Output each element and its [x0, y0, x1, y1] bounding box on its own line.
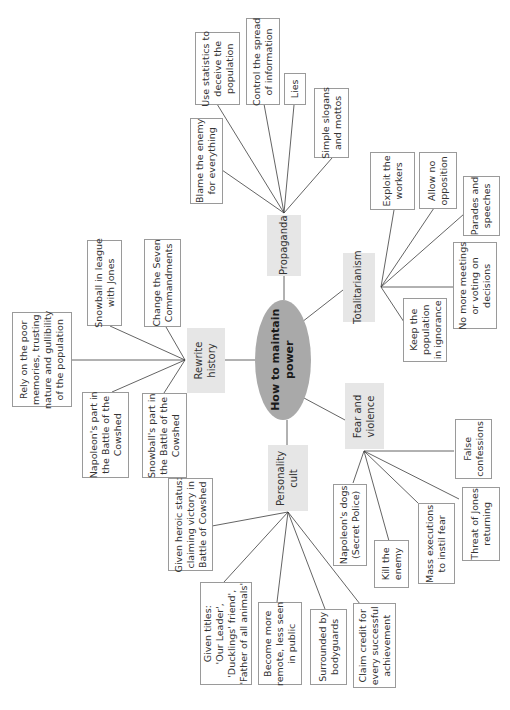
category-label: Fear and violence	[352, 394, 377, 438]
connector-center-fear	[304, 398, 345, 420]
category-label: Propaganda	[278, 216, 291, 276]
node-claim-credit: Claim credit for every successful achiev…	[353, 603, 396, 688]
connector-rewrite-item	[110, 326, 185, 360]
node-change-seven-commandments: Change the Seven Commandments	[144, 239, 181, 327]
connector-totalitarianism-item	[381, 287, 404, 322]
node-text: Use statistics to deceive the population	[200, 31, 236, 107]
node-text: Threat of Jones returning	[469, 488, 493, 560]
category-personality-cult: Personality cult	[268, 445, 308, 511]
connector-propaganda-item	[222, 170, 284, 213]
connector-fear-item	[364, 451, 459, 499]
node-text: False confessions	[462, 421, 486, 477]
node-text: Claim credit for every successful achiev…	[357, 606, 393, 685]
node-text: Given heroic status: claiming victory in…	[173, 477, 209, 572]
node-exploit-workers: Exploit the workers	[370, 152, 415, 210]
node-given-heroic-status: Given heroic status: claiming victory in…	[168, 478, 213, 571]
node-text: Allow no opposition	[426, 156, 450, 205]
node-text: Control the spread of information	[251, 17, 275, 105]
node-text: Become more remote, less seen in public	[262, 601, 298, 685]
category-rewrite-history: Rewrite history	[187, 328, 225, 393]
connector-personality-item	[277, 512, 288, 602]
category-label: Totalitarianism	[353, 251, 366, 324]
node-text: Snowball in league with Jones	[93, 238, 117, 328]
node-text: Change the Seven Commandments	[151, 239, 175, 326]
connector-propaganda-item	[284, 105, 294, 213]
connector-fear-item	[364, 451, 418, 503]
connector-fear-item	[364, 451, 389, 541]
node-text: Exploit the workers	[381, 155, 405, 206]
node-parades-speeches: Parades and speeches	[463, 176, 500, 236]
node-text: Napoleon's dogs (Secret Police)	[338, 486, 362, 565]
node-surrounded-bodyguards: Surrounded by bodyguards	[310, 609, 347, 685]
connector-personality-item	[224, 512, 288, 582]
node-mass-executions: Mass executions to instil fear	[418, 503, 455, 584]
node-snowball-in-league: Snowball in league with Jones	[87, 240, 122, 326]
category-totalitarianism: Totalitarianism	[343, 253, 375, 322]
node-kill-the-enemy: Kill the enemy	[374, 540, 409, 588]
node-rely-on-poor-memories: Rely on the poor memories, trusting natu…	[12, 312, 72, 407]
node-snowballs-part: Snowball's part in the Battle of the Cow…	[142, 393, 187, 478]
node-text: Mass executions to instil fear	[425, 504, 449, 582]
node-napoleons-dogs: Napoleon's dogs (Secret Police)	[333, 484, 367, 566]
category-label: Personality cult	[276, 450, 301, 505]
node-simple-slogans: Simple slogans and mottos	[314, 88, 349, 158]
connector-totalitarianism-item	[381, 210, 394, 287]
node-text: Given titles: 'Our Leader', 'Ducklings' …	[202, 583, 250, 685]
node-text: Parades and speeches	[470, 177, 494, 236]
node-no-more-meetings: No more meetings or voting on decisions	[453, 242, 497, 329]
node-allow-no-opposition: Allow no opposition	[419, 152, 457, 209]
node-text: Keep the population in ignorance	[407, 301, 443, 360]
node-text: Lies	[289, 80, 301, 99]
node-text: Napoleon's part in the Battle of the Cow…	[88, 392, 124, 479]
central-topic: How to maintain power	[255, 300, 311, 420]
node-become-more-remote: Become more remote, less seen in public	[258, 602, 302, 685]
node-text: Snowball's part in the Battle of the Cow…	[147, 393, 183, 478]
node-keep-population-ignorance: Keep the population in ignorance	[403, 298, 447, 362]
node-text: Kill the enemy	[380, 548, 404, 581]
node-use-statistics: Use statistics to deceive the population	[195, 32, 240, 105]
node-given-titles: Given titles: 'Our Leader', 'Ducklings' …	[200, 582, 252, 685]
connector-center-totalitarianism	[302, 290, 343, 322]
connector-fear-item	[353, 451, 364, 483]
node-false-confessions: False confessions	[455, 419, 492, 479]
node-threat-of-jones: Threat of Jones returning	[462, 487, 500, 561]
category-fear-and-violence: Fear and violence	[345, 383, 384, 449]
node-text: Simple slogans and mottos	[320, 87, 344, 159]
connector-rewrite-item	[166, 327, 185, 360]
node-text: No more meetings or voting on decisions	[457, 242, 493, 330]
node-napoleons-part: Napoleon's part in the Battle of the Cow…	[82, 392, 129, 478]
node-control-information: Control the spread of information	[246, 18, 280, 105]
central-topic-label: How to maintain power	[269, 309, 297, 411]
connector-propaganda-item	[284, 158, 332, 213]
connector-personality-item	[288, 512, 325, 609]
node-text: Blame the enemy for everything	[195, 119, 219, 203]
node-lies: Lies	[284, 73, 306, 105]
node-text: Rely on the poor memories, trusting natu…	[18, 310, 66, 408]
connector-rewrite-item	[112, 360, 185, 392]
node-blame-the-enemy: Blame the enemy for everything	[190, 118, 223, 204]
category-label: Rewrite history	[193, 342, 218, 380]
node-text: Surrounded by bodyguards	[317, 612, 341, 682]
category-propaganda: Propaganda	[267, 215, 301, 276]
